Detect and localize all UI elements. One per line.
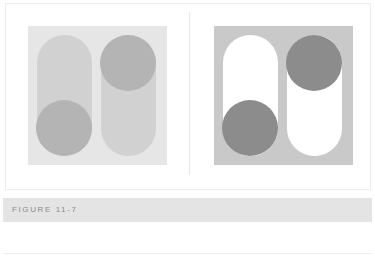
figure-caption: FIGURE 11-7	[12, 205, 77, 214]
toggle-knob-off	[36, 100, 92, 156]
toggle-knob-on	[100, 35, 156, 91]
panel-divider	[189, 12, 190, 175]
figure-panel-right	[214, 26, 353, 165]
figure-caption-bar: FIGURE 11-7	[3, 198, 372, 222]
bottom-rule	[3, 253, 372, 254]
toggle-knob-off	[222, 100, 278, 156]
toggle-knob-on	[286, 35, 342, 91]
figure-panel-left	[28, 26, 167, 165]
